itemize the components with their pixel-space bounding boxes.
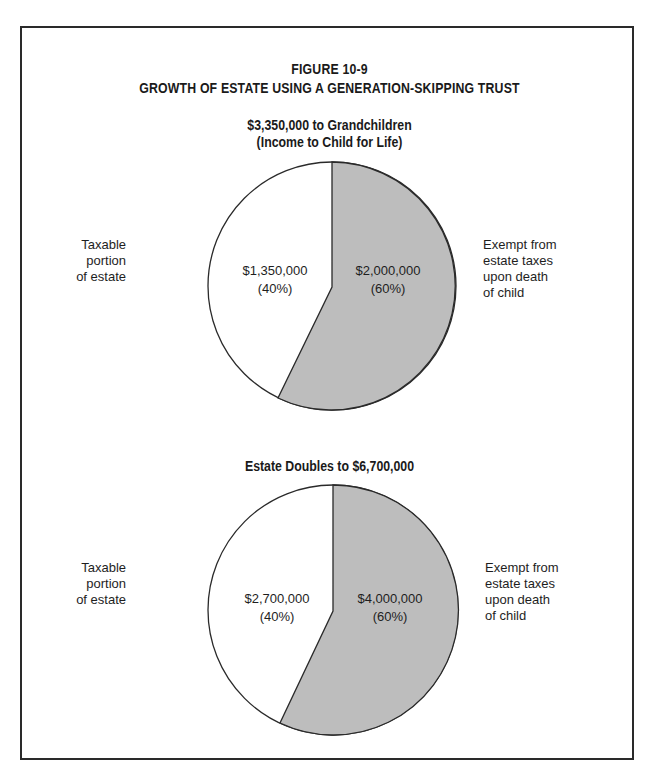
pie2-exempt-label: $4,000,000 (60%) bbox=[345, 590, 435, 626]
annotation-line: Taxable bbox=[70, 237, 126, 253]
pie2-taxable-label: $2,700,000 (40%) bbox=[232, 590, 322, 626]
slice-value: $2,000,000 bbox=[343, 262, 433, 280]
annotation-line: Exempt from bbox=[483, 237, 583, 253]
pie2-taxable-annotation: Taxable portion of estate bbox=[70, 560, 126, 608]
slice-percent: (40%) bbox=[230, 280, 320, 298]
pie-charts bbox=[0, 0, 659, 781]
annotation-line: of child bbox=[483, 285, 583, 301]
pie1-exempt-annotation: Exempt from estate taxes upon death of c… bbox=[483, 237, 583, 301]
annotation-line: portion bbox=[70, 576, 126, 592]
slice-percent: (60%) bbox=[345, 608, 435, 626]
annotation-line: upon death bbox=[483, 269, 583, 285]
annotation-line: estate taxes bbox=[483, 253, 583, 269]
slice-value: $2,700,000 bbox=[232, 590, 322, 608]
slice-percent: (40%) bbox=[232, 608, 322, 626]
pie1-taxable-annotation: Taxable portion of estate bbox=[70, 237, 126, 285]
annotation-line: upon death bbox=[485, 592, 585, 608]
pie2-exempt-annotation: Exempt from estate taxes upon death of c… bbox=[485, 560, 585, 624]
slice-value: $4,000,000 bbox=[345, 590, 435, 608]
annotation-line: of estate bbox=[70, 592, 126, 608]
annotation-line: portion bbox=[70, 253, 126, 269]
annotation-line: of child bbox=[485, 608, 585, 624]
slice-value: $1,350,000 bbox=[230, 262, 320, 280]
annotation-line: Exempt from bbox=[485, 560, 585, 576]
slice-percent: (60%) bbox=[343, 280, 433, 298]
pie1-taxable-label: $1,350,000 (40%) bbox=[230, 262, 320, 298]
annotation-line: estate taxes bbox=[485, 576, 585, 592]
annotation-line: Taxable bbox=[70, 560, 126, 576]
pie1-exempt-label: $2,000,000 (60%) bbox=[343, 262, 433, 298]
annotation-line: of estate bbox=[70, 269, 126, 285]
